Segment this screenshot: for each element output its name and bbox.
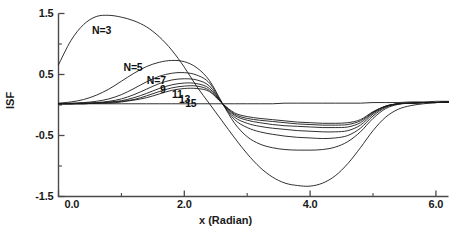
y-axis-title: ISF [4,93,16,109]
data-curves [59,15,449,186]
y-tick-label-2: -0.5 [35,129,53,141]
y-tick-label-0: 1.5 [39,7,54,19]
x-tick-label-0: 0.0 [65,198,80,210]
curve-label-n3: N=3 [92,24,111,36]
y-tick-label-1: 0.5 [39,68,54,80]
curve-label-n9: 9 [160,83,166,95]
curve-label-n5: N=5 [124,61,143,73]
x-tick-label-2: 4.0 [303,198,318,210]
curve-label-n15: 15 [185,97,196,109]
x-axis-title: x (Radian) [199,214,252,226]
chart-figure: ISF x (Radian) 1.50.5-0.5-1.50.02.04.06.… [0,0,462,233]
x-tick-label-1: 2.0 [177,198,192,210]
x-tick-label-3: 6.0 [429,198,444,210]
y-tick-label-3: -1.5 [35,190,53,202]
